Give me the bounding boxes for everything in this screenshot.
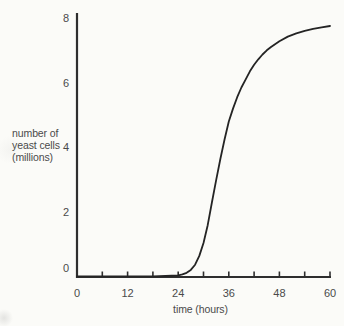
x-axis-title: time (hours) <box>173 303 228 315</box>
y-axis-title-line: number of <box>12 127 59 139</box>
y-axis-title-line: (millions) <box>12 151 53 163</box>
x-tick-label: 12 <box>121 287 133 299</box>
chart-canvas: 0122436486002468time (hours)number ofyea… <box>0 0 344 326</box>
y-tick-label: 4 <box>63 141 69 153</box>
growth-curve <box>77 26 330 276</box>
x-tick-label: 48 <box>273 287 285 299</box>
y-tick-label: 8 <box>63 12 69 24</box>
x-tick-label: 60 <box>324 287 336 299</box>
x-tick-label: 24 <box>172 287 184 299</box>
y-tick-label: 6 <box>63 77 69 89</box>
x-tick-label: 36 <box>223 287 235 299</box>
y-tick-label: 0 <box>63 262 69 274</box>
y-axis-title-line: yeast cells <box>12 139 60 151</box>
y-tick-label: 2 <box>63 206 69 218</box>
x-tick-label: 0 <box>74 287 80 299</box>
yeast-growth-chart: 0122436486002468time (hours)number ofyea… <box>0 0 344 326</box>
